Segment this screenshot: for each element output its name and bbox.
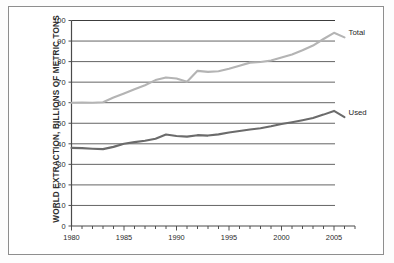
- series-label-used: Used: [349, 108, 367, 117]
- data-series-group: [72, 33, 345, 149]
- chart-figure: WORLD EXTRACTION, BILLIONS OF METRIC TON…: [0, 0, 394, 263]
- gridlines-group: [72, 21, 336, 206]
- x-tick-label: 2005: [321, 233, 347, 242]
- y-tick-label: 80: [50, 57, 66, 66]
- y-tick-label: 30: [50, 160, 66, 169]
- series-line-total: [72, 33, 345, 103]
- y-tick-label: 70: [50, 78, 66, 87]
- x-tick-label: 1995: [216, 233, 242, 242]
- x-tick-label: 1980: [59, 233, 85, 242]
- y-tick-label: 60: [50, 99, 66, 108]
- y-tick-label: 90: [50, 37, 66, 46]
- series-label-total: Total: [349, 28, 365, 37]
- y-tick-label: 10: [50, 201, 66, 210]
- x-axis-ticks-group: [72, 226, 356, 231]
- y-tick-label: 100: [50, 16, 66, 25]
- x-tick-label: 1985: [111, 233, 137, 242]
- y-tick-label: 50: [50, 119, 66, 128]
- y-tick-label: 20: [50, 181, 66, 190]
- x-tick-label: 2000: [269, 233, 295, 242]
- y-tick-label: 0: [50, 222, 66, 231]
- y-tick-label: 40: [50, 140, 66, 149]
- x-tick-label: 1990: [164, 233, 190, 242]
